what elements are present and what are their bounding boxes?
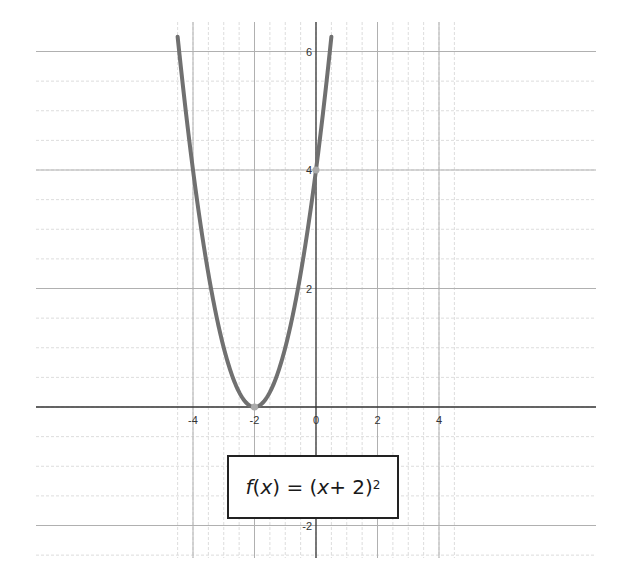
x-tick-label: -2 (250, 414, 260, 426)
function-label-box: f(x) = (x + 2)2 (227, 455, 399, 519)
y-tick-label: 4 (306, 164, 312, 176)
function-variable: x (260, 475, 272, 499)
vertex-point (251, 404, 258, 411)
y-tick-label: 6 (306, 46, 312, 58)
x-tick-label: -4 (188, 414, 198, 426)
function-equals: ) = ( (272, 475, 317, 499)
y-intercept-point (313, 167, 320, 174)
y-tick-label: -2 (302, 520, 312, 532)
expression-tail: + 2) (329, 475, 373, 499)
y-tick-label: 2 (306, 283, 312, 295)
exponent: 2 (373, 478, 381, 492)
expression-variable: x (317, 475, 329, 499)
x-tick-label: 2 (374, 414, 380, 426)
x-tick-label: 4 (436, 414, 442, 426)
x-tick-label: 0 (313, 414, 319, 426)
function-name: f (246, 475, 253, 499)
